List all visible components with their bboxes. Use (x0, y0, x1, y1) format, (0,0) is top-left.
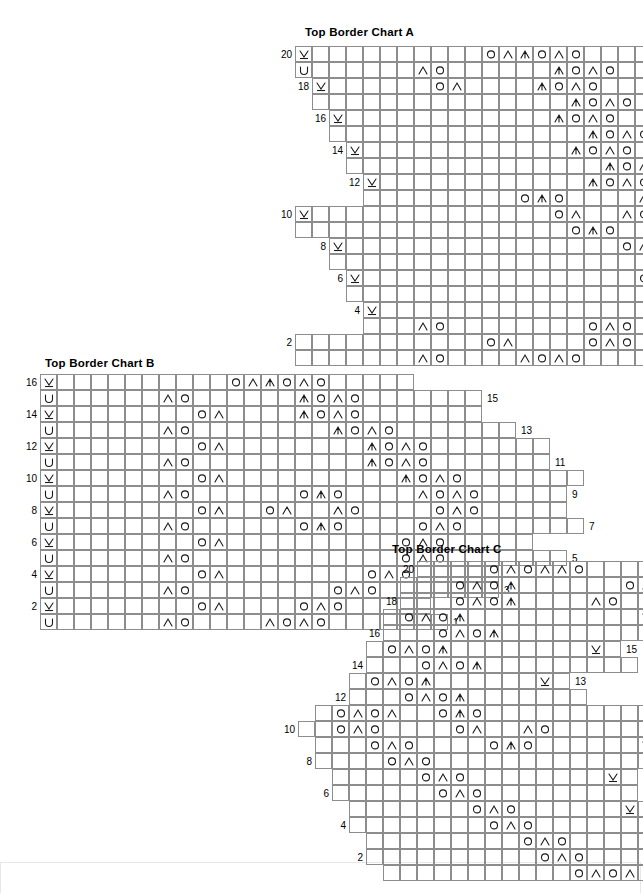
empty-cell (499, 142, 516, 158)
empty-cell (587, 817, 604, 833)
empty-cell (465, 518, 482, 534)
empty-cell (261, 518, 278, 534)
empty-cell (502, 625, 519, 641)
row-number: 13 (521, 423, 532, 439)
central-double-decrease-icon (533, 190, 550, 206)
empty-cell (533, 62, 550, 78)
empty-cell (380, 470, 397, 486)
empty-cell (366, 641, 383, 657)
empty-cell (278, 438, 295, 454)
empty-cell (363, 126, 380, 142)
empty-cell (465, 270, 482, 286)
decrease-icon (516, 350, 533, 366)
empty-cell (482, 110, 499, 126)
empty-cell (295, 438, 312, 454)
empty-cell (499, 78, 516, 94)
empty-cell (618, 222, 635, 238)
empty-cell (570, 833, 587, 849)
empty-cell (397, 502, 414, 518)
empty-cell (448, 94, 465, 110)
empty-cell (468, 609, 485, 625)
empty-cell (638, 849, 643, 865)
empty-cell (482, 454, 499, 470)
empty-cell (604, 577, 621, 593)
empty-cell (431, 334, 448, 350)
empty-cell (468, 833, 485, 849)
yarn-over-icon (618, 318, 635, 334)
empty-cell (570, 593, 587, 609)
central-double-decrease-icon (516, 46, 533, 62)
empty-cell (363, 406, 380, 422)
yarn-over-icon (448, 470, 465, 486)
yarn-over-icon (635, 206, 643, 222)
empty-cell (434, 721, 451, 737)
empty-cell (176, 534, 193, 550)
yarn-over-icon (584, 78, 601, 94)
empty-cell (550, 142, 567, 158)
slip-stitch-icon (638, 737, 643, 753)
empty-cell (142, 534, 159, 550)
empty-cell (465, 158, 482, 174)
empty-cell (584, 350, 601, 366)
empty-cell (380, 270, 397, 286)
empty-cell (176, 470, 193, 486)
empty-cell (553, 769, 570, 785)
row-number: 15 (487, 391, 498, 407)
decrease-icon (400, 641, 417, 657)
decrease-icon (244, 374, 261, 390)
empty-cell (468, 865, 485, 881)
central-double-decrease-icon (312, 486, 329, 502)
empty-cell (57, 614, 74, 630)
empty-cell (448, 238, 465, 254)
empty-cell (451, 833, 468, 849)
empty-cell (363, 62, 380, 78)
empty-cell (417, 849, 434, 865)
empty-cell (604, 849, 621, 865)
empty-cell (57, 406, 74, 422)
empty-cell (346, 334, 363, 350)
empty-cell (604, 609, 621, 625)
empty-cell (536, 737, 553, 753)
empty-cell (278, 390, 295, 406)
empty-cell (485, 641, 502, 657)
empty-cell (485, 673, 502, 689)
central-double-decrease-icon (363, 438, 380, 454)
empty-cell (448, 334, 465, 350)
empty-cell (125, 502, 142, 518)
empty-cell (516, 158, 533, 174)
yarn-over-icon (278, 614, 295, 630)
empty-cell (278, 550, 295, 566)
central-double-decrease-icon (329, 422, 346, 438)
empty-cell (448, 142, 465, 158)
empty-cell (635, 318, 643, 334)
empty-cell (553, 689, 570, 705)
empty-cell (57, 502, 74, 518)
yarn-over-icon (621, 577, 638, 593)
empty-cell (108, 438, 125, 454)
empty-cell (465, 470, 482, 486)
empty-cell (414, 502, 431, 518)
empty-cell (380, 158, 397, 174)
empty-cell (400, 785, 417, 801)
empty-cell (349, 753, 366, 769)
empty-cell (485, 657, 502, 673)
empty-cell (584, 286, 601, 302)
empty-cell (587, 849, 604, 865)
empty-cell (638, 705, 643, 721)
decrease-icon (519, 721, 536, 737)
yarn-over-icon (329, 518, 346, 534)
empty-cell (587, 785, 604, 801)
yarn-over-icon (400, 689, 417, 705)
purl-icon (40, 486, 57, 502)
empty-cell (312, 94, 329, 110)
empty-cell (91, 470, 108, 486)
purl-icon (40, 454, 57, 470)
chart-row (364, 303, 643, 319)
decrease-icon (346, 582, 363, 598)
empty-cell (346, 78, 363, 94)
empty-cell (516, 502, 533, 518)
empty-cell (536, 641, 553, 657)
empty-cell (380, 110, 397, 126)
empty-cell (499, 302, 516, 318)
empty-cell (482, 350, 499, 366)
